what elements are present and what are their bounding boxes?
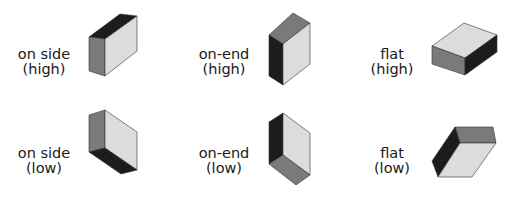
box-on-side-high-icon (89, 14, 137, 76)
box-flat-low-icon (432, 127, 496, 177)
box-orientation-figure (0, 0, 521, 197)
box-on-end-low-icon (269, 113, 310, 185)
box-flat-high-icon (432, 23, 497, 75)
box-on-end-high-icon (269, 13, 310, 85)
box-on-side-low-icon (89, 110, 137, 174)
